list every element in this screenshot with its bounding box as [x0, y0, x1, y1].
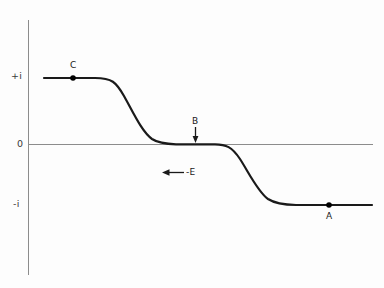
point-label-c: C	[70, 60, 76, 70]
hysteresis-curve	[44, 78, 372, 205]
pointer-arrow-b	[193, 127, 199, 143]
marker-point-c	[70, 75, 76, 81]
y-tick-label-zero: 0	[17, 138, 23, 149]
marker-point-a	[326, 202, 332, 208]
point-label-b: B	[192, 116, 198, 126]
plot-canvas	[0, 0, 384, 288]
point-label-a: A	[326, 211, 332, 221]
y-tick-label-negative: -i	[13, 198, 19, 209]
chart-figure: +i 0 -i C B A -E	[0, 0, 384, 288]
pointer-arrow-field	[162, 169, 184, 176]
field-annotation-label: -E	[186, 167, 195, 177]
y-tick-label-positive: +i	[11, 70, 22, 81]
